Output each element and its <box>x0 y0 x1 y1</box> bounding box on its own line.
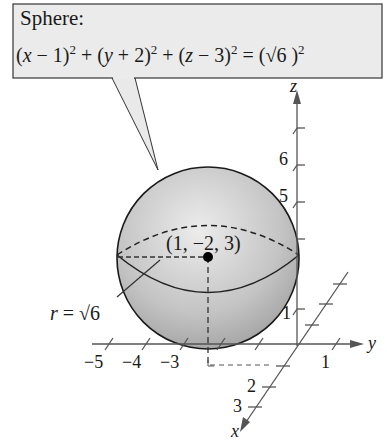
z-axis-label: z <box>290 76 297 97</box>
radius-label: r = √6 <box>50 302 100 325</box>
sphere-equation: (x − 1)2 + (y + 2)2 + (z − 3)2 = (√6 )2 <box>16 42 305 67</box>
y-tick-1: 1 <box>321 352 330 373</box>
callout-title: Sphere: <box>20 6 84 31</box>
y-tick-minus5: −5 <box>84 352 103 373</box>
y-tick-minus4: −4 <box>122 352 141 373</box>
z-tick-1: 1 <box>282 303 291 324</box>
x-tick-2: 2 <box>247 376 256 397</box>
x-tick-3: 3 <box>233 396 242 417</box>
z-tick-5: 5 <box>279 186 288 207</box>
y-axis-label: y <box>368 333 376 354</box>
x-axis-label: x <box>231 421 239 441</box>
z-tick-6: 6 <box>279 149 288 170</box>
center-label: (1, −2, 3) <box>166 232 241 255</box>
y-tick-minus3: −3 <box>160 352 179 373</box>
